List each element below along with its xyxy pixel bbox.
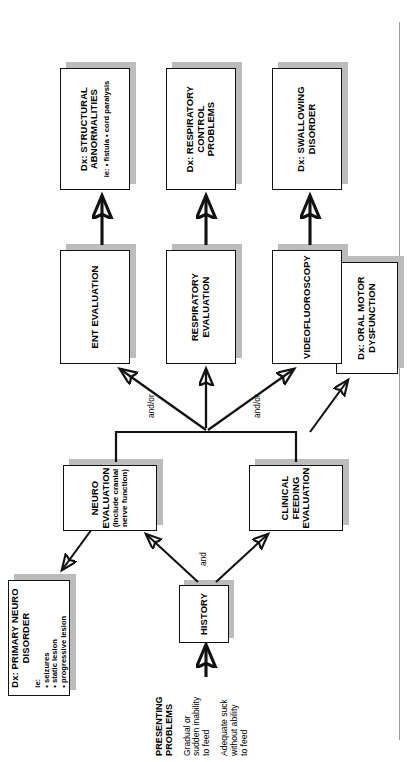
neuro-eval-title: NEURO EVALUATION	[90, 467, 111, 528]
node-dx-oral-motor-dysfunction[interactable]: Dx: ORAL MOTOR DYSFUNCTION	[336, 262, 398, 374]
node-videofluoroscopy[interactable]: VIDEOFLUOROSCOPY	[272, 250, 342, 364]
structural-bullet-0: • fistula	[102, 139, 111, 166]
node-history[interactable]: HISTORY	[179, 585, 229, 643]
node-respiratory-evaluation[interactable]: RESPIRATORY EVALUATION	[166, 250, 236, 364]
primary-neuro-disorder-title: Dx: PRIMARY NEURO DISORDER	[10, 588, 31, 687]
neuro-eval-subtitle: (include cranial nerve function)	[112, 467, 130, 528]
presenting-problem-1: Gradual or sudden inability to feed	[183, 678, 213, 756]
bracket-upper-branch	[116, 432, 206, 462]
structural-bullet-label: ie:	[102, 168, 111, 177]
edge-label-and-or-upper: and/or	[146, 394, 156, 418]
primary-neuro-bullet-2: • progressive lesion	[60, 588, 69, 687]
node-neuro-evaluation[interactable]: NEURO EVALUATION (include cranial nerve …	[63, 465, 157, 531]
arrow-history-to-neuro	[146, 534, 198, 582]
oral-motor-title: Dx: ORAL MOTOR DYSFUNCTION	[356, 276, 377, 360]
node-clinical-feeding-evaluation[interactable]: CLINICAL FEEDING EVALUATION	[249, 465, 343, 531]
structural-abnormalities-bullets: ie: • fistula • cord paralysis	[103, 81, 112, 178]
flowchart-figure: PRESENTING PROBLEMS Gradual or sudden in…	[0, 0, 412, 762]
swallowing-disorder-title: Dx: SWALLOWING DISORDER	[296, 86, 317, 171]
arrow-clinical-feeding-to-oral-motor	[310, 380, 348, 432]
respiratory-control-title: Dx: RESPIRATORY CONTROL PROBLEMS	[185, 86, 217, 172]
presenting-problems-block: PRESENTING PROBLEMS Gradual or sudden in…	[154, 678, 250, 756]
videofluoroscopy-title: VIDEOFLUOROSCOPY	[302, 255, 313, 359]
clinical-feeding-title: CLINICAL FEEDING EVALUATION	[280, 467, 312, 528]
structural-bullet-1: • cord paralysis	[102, 81, 111, 137]
respiratory-eval-title: RESPIRATORY EVALUATION	[190, 273, 211, 341]
node-dx-structural-abnormalities[interactable]: Dx: STRUCTURAL ABNORMALITIES ie: • fistu…	[60, 68, 130, 190]
edge-label-and: and	[198, 552, 208, 566]
history-title: HISTORY	[199, 593, 210, 635]
structural-abnormalities-title: Dx: STRUCTURAL ABNORMALITIES	[79, 81, 100, 178]
node-dx-primary-neuro-disorder[interactable]: Dx: PRIMARY NEURO DISORDER ie: • seizure…	[8, 580, 70, 696]
node-ent-evaluation[interactable]: ENT EVALUATION	[60, 250, 130, 364]
node-dx-swallowing-disorder[interactable]: Dx: SWALLOWING DISORDER	[272, 68, 342, 190]
bracket-lower-branch	[206, 432, 296, 462]
node-dx-respiratory-control-problems[interactable]: Dx: RESPIRATORY CONTROL PROBLEMS	[166, 68, 236, 190]
arrow-history-to-clinical-feeding	[216, 534, 268, 582]
primary-neuro-disorder-bullets: ie: • seizures • static lesion • progres…	[34, 588, 68, 687]
arrow-junction-to-videofluoroscopy	[208, 369, 294, 430]
presenting-problem-2: Adequate suck without ability to feed	[220, 678, 250, 756]
presenting-problems-heading: PRESENTING PROBLEMS	[154, 678, 175, 756]
arrow-junction-to-ent-eval	[120, 369, 206, 430]
edge-label-and-or-lower: and/or	[252, 394, 262, 418]
ent-eval-title: ENT EVALUATION	[90, 266, 101, 349]
page-canvas: PRESENTING PROBLEMS Gradual or sudden in…	[0, 0, 412, 762]
flowchart-canvas: PRESENTING PROBLEMS Gradual or sudden in…	[0, 0, 412, 762]
